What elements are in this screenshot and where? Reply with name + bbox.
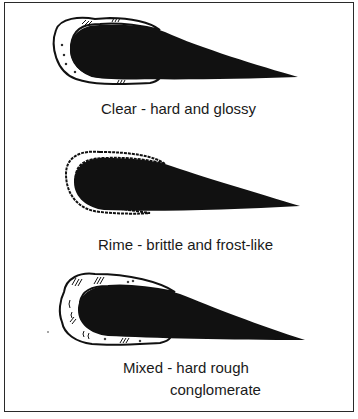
caption-mixed-ice-line1: Mixed - hard rough [123,359,249,376]
rime-ice-airfoil [66,152,300,214]
ice-types-illustration [0,0,358,419]
speck [47,331,49,333]
caption-clear-ice: Clear - hard and glossy [101,100,256,117]
clear-ice-airfoil [54,18,298,85]
caption-mixed-ice-line2: conglomerate [170,381,261,398]
caption-rime-ice: Rime - brittle and frost-like [98,236,273,253]
mixed-ice-airfoil [47,274,305,345]
